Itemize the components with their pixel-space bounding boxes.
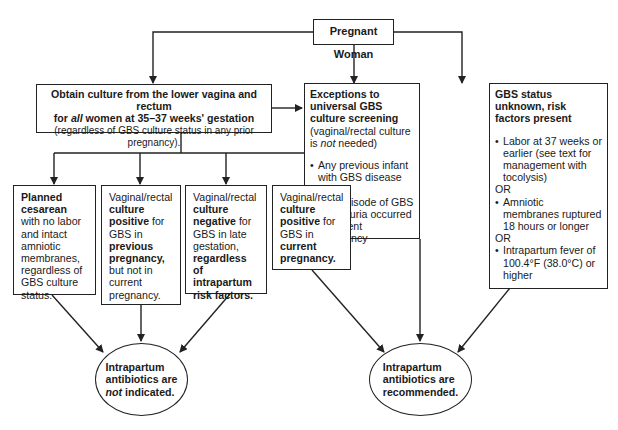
gbs-unknown-box: GBS status unknown, risk factors present… [489, 83, 608, 289]
or-label: OR [495, 232, 602, 244]
planned-cesarean-box: Planned cesarean with no labor and intac… [13, 185, 96, 295]
outcome-not-indicated: Intrapartum antibiotics are not indicate… [95, 343, 188, 416]
culture-negative-box: Vaginal/rectal culture negative for GBS … [185, 185, 267, 294]
current-positive-box: Vaginal/rectal culture positive for GBS … [272, 185, 351, 270]
exceptions-note: (vaginal/rectal culture is not needed) [310, 125, 414, 149]
exceptions-title: Exceptions to universal GBS culture scre… [310, 88, 414, 125]
unknown-title: GBS status unknown, risk factors present [495, 88, 602, 125]
or-label: OR [495, 183, 602, 195]
culture-line-2: for all women at 35–37 weeks' gestation [37, 112, 271, 124]
outcome-recommended: Intrapartum antibiotics are recommended. [369, 343, 472, 416]
risk-factor-item: •Amniotic membranes ruptured 18 hours or… [495, 196, 602, 233]
culture-line-3: (regardless of GBS culture status in any… [37, 125, 271, 149]
culture-line-1: Obtain culture from the lower vagina and… [37, 88, 271, 112]
risk-factor-item: •Labor at 37 weeks or earlier (see text … [495, 135, 602, 184]
risk-factor-item: •Intrapartum fever of 100.4°F (38.0°C) o… [495, 244, 602, 281]
pregnant-woman-box: Pregnant Woman [313, 19, 394, 45]
obtain-culture-box: Obtain culture from the lower vagina and… [36, 84, 272, 133]
previous-positive-box: Vaginal/rectal culture positive for GBS … [101, 185, 181, 305]
exception-item: •Any previous infant with GBS disease [310, 159, 414, 183]
